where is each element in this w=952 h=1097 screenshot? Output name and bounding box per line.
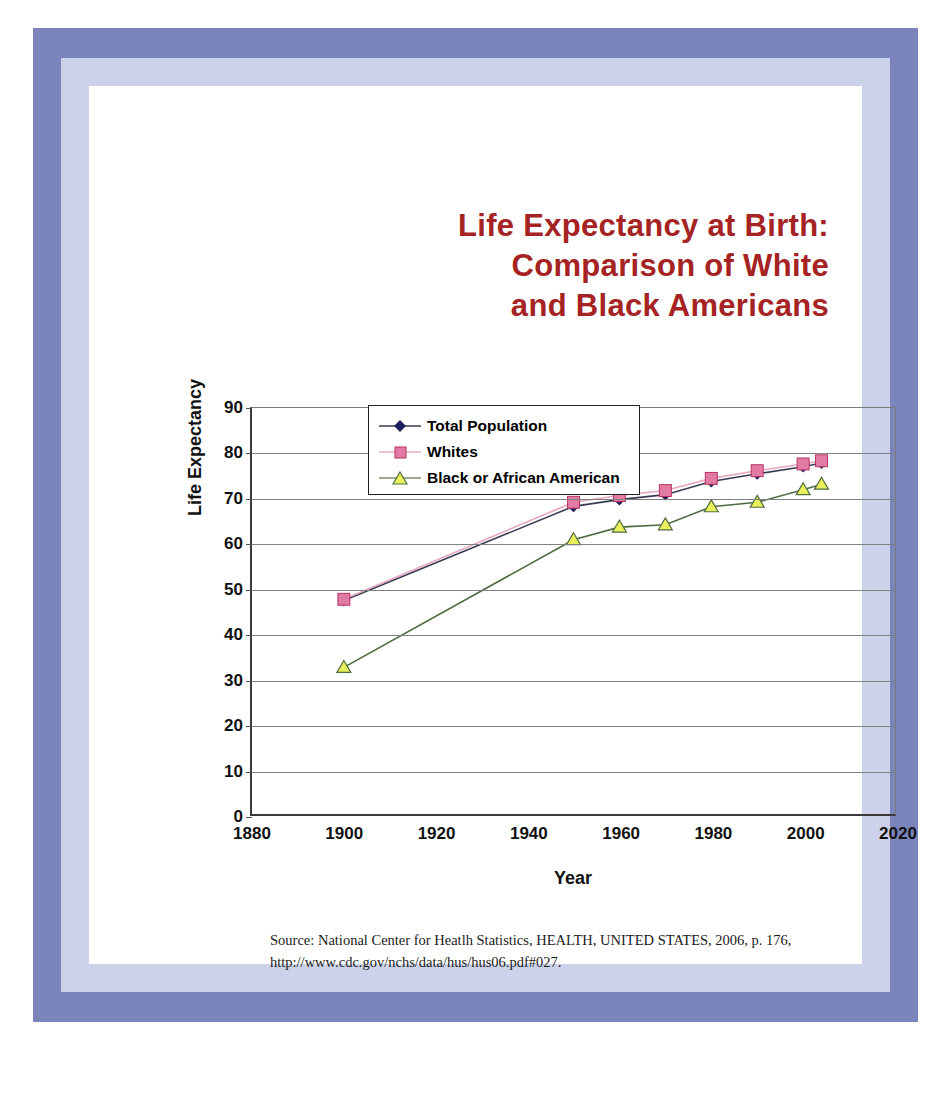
- data-point-marker: [337, 660, 351, 672]
- y-axis-tick-20: 20: [224, 716, 243, 736]
- source-note: Source: National Center for Heatlh Stati…: [270, 929, 830, 973]
- x-axis-tick-1940: 1940: [510, 824, 548, 844]
- chart: Life Expectancy 010203040506070809018801…: [89, 86, 862, 964]
- x-axis-label: Year: [250, 868, 896, 889]
- y-axis-tickmark: [246, 453, 252, 454]
- y-axis-tick-30: 30: [224, 671, 243, 691]
- x-axis-tick-1900: 1900: [325, 824, 363, 844]
- data-point-marker: [338, 593, 350, 605]
- y-axis-label: Life Expectancy: [185, 379, 206, 516]
- y-axis-tickmark: [246, 772, 252, 773]
- diamond-marker-icon: [377, 416, 423, 436]
- data-point-marker: [797, 458, 809, 470]
- x-axis-tick-1880: 1880: [233, 824, 271, 844]
- frame-outer-border: Life Expectancy at Birth: Comparison of …: [33, 28, 918, 1022]
- data-point-marker: [815, 477, 829, 489]
- data-point-marker: [659, 485, 671, 497]
- x-axis-tick-1960: 1960: [602, 824, 640, 844]
- legend-label-total-population: Total Population: [427, 417, 547, 435]
- legend-item-whites: Whites: [369, 439, 639, 465]
- x-axis-tick-2020: 2020: [879, 824, 917, 844]
- y-axis-tickmark: [246, 726, 252, 727]
- y-axis-tickmark: [246, 635, 252, 636]
- gridline: [252, 726, 895, 727]
- y-axis-tick-60: 60: [224, 534, 243, 554]
- y-axis-tick-90: 90: [224, 398, 243, 418]
- data-point-marker: [705, 472, 717, 484]
- legend-label-black-or-african-american: Black or African American: [427, 469, 620, 487]
- data-point-marker: [751, 465, 763, 477]
- y-axis-tickmark: [246, 590, 252, 591]
- legend-item-black-or-african-american: Black or African American: [369, 465, 639, 491]
- triangle-marker-icon: [377, 468, 423, 488]
- legend-label-whites: Whites: [427, 443, 478, 461]
- x-axis-tick-2000: 2000: [787, 824, 825, 844]
- y-axis-tick-10: 10: [224, 762, 243, 782]
- gridline: [252, 681, 895, 682]
- y-axis-tick-40: 40: [224, 625, 243, 645]
- y-axis-tick-80: 80: [224, 443, 243, 463]
- y-axis-tick-50: 50: [224, 580, 243, 600]
- y-axis-tickmark: [246, 681, 252, 682]
- y-axis-tickmark: [246, 817, 252, 818]
- gridline: [252, 772, 895, 773]
- source-line-1: Source: National Center for Heatlh Stati…: [270, 929, 830, 951]
- y-axis-tickmark: [246, 499, 252, 500]
- data-point-marker: [816, 455, 828, 467]
- gridline: [252, 635, 895, 636]
- gridline: [252, 499, 895, 500]
- frame-inner-border: Life Expectancy at Birth: Comparison of …: [61, 58, 890, 992]
- x-axis-tick-1920: 1920: [418, 824, 456, 844]
- chart-legend: Total Population Whites: [368, 405, 640, 495]
- y-axis-tickmark: [246, 408, 252, 409]
- content-card: Life Expectancy at Birth: Comparison of …: [89, 86, 862, 964]
- square-marker-icon: [377, 442, 423, 462]
- gridline: [252, 544, 895, 545]
- x-axis-tick-1980: 1980: [695, 824, 733, 844]
- poster-page: Life Expectancy at Birth: Comparison of …: [0, 0, 952, 1097]
- legend-item-total-population: Total Population: [369, 413, 639, 439]
- data-point-marker: [658, 518, 672, 530]
- source-line-2: http://www.cdc.gov/nchs/data/hus/hus06.p…: [270, 951, 830, 973]
- y-axis-tickmark: [246, 544, 252, 545]
- y-axis-tick-70: 70: [224, 489, 243, 509]
- series-black-or-african-american: [337, 477, 829, 672]
- gridline: [252, 590, 895, 591]
